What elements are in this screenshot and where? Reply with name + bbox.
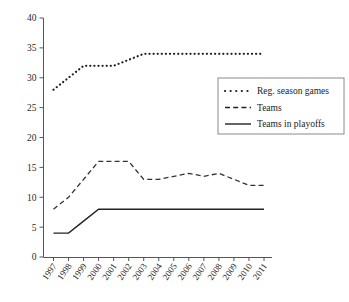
x-tick-label: 2011	[251, 261, 269, 281]
y-tick-label: 30	[27, 73, 37, 83]
x-tick-label: 2010	[236, 261, 255, 282]
legend-label-1: Teams	[257, 103, 282, 113]
chart-container: 0510152025303540 19971998199920002001200…	[0, 0, 349, 302]
legend-label-2: Teams in playoffs	[257, 119, 325, 129]
x-tick-label: 2009	[221, 261, 240, 282]
x-tick-label: 2002	[115, 261, 134, 281]
x-tick-label: 2005	[160, 261, 179, 282]
x-tick-label: 2004	[145, 261, 164, 282]
x-tick-label: 1997	[40, 261, 59, 282]
y-tick-label: 25	[27, 103, 37, 113]
x-tick-label: 1999	[70, 261, 89, 282]
y-tick-label: 10	[27, 193, 37, 203]
x-axis-ticks: 1997199819992000200120022003200420052006…	[40, 257, 269, 282]
y-tick-label: 40	[27, 13, 37, 23]
x-tick-label: 1998	[55, 261, 74, 282]
x-tick-label: 2003	[130, 261, 149, 282]
legend-label-0: Reg. season games	[257, 86, 329, 96]
x-tick-label: 2006	[175, 261, 194, 282]
chart-legend: Reg. season gamesTeamsTeams in playoffs	[218, 78, 344, 134]
x-tick-label: 2000	[85, 261, 104, 282]
x-tick-label: 2001	[100, 261, 119, 281]
y-tick-label: 15	[27, 163, 37, 173]
y-tick-label: 20	[27, 133, 37, 143]
x-tick-label: 2008	[206, 261, 225, 282]
line-chart: 0510152025303540 19971998199920002001200…	[0, 0, 349, 302]
y-tick-label: 5	[32, 223, 37, 233]
y-tick-label: 0	[32, 252, 37, 262]
y-axis-ticks: 0510152025303540	[27, 13, 44, 262]
y-tick-label: 35	[27, 43, 37, 53]
series-line-1	[54, 161, 265, 209]
series-line-2	[54, 209, 265, 233]
x-tick-label: 2007	[190, 261, 209, 282]
